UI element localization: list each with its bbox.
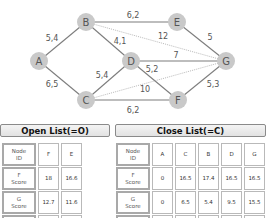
edge-weight-label: 10	[140, 85, 150, 94]
close-list-header: Close List(=C)	[115, 124, 266, 137]
node-label: A	[36, 56, 43, 67]
table-row-f-score: FScore 18 16.6	[2, 167, 82, 190]
cell: 6.5	[175, 191, 196, 214]
cell: E	[61, 143, 82, 166]
table-row-h-score: HScore 0 10 12 7 0	[116, 215, 265, 218]
cell: 9.5	[221, 191, 242, 214]
cell: 16.5	[244, 167, 265, 190]
graph-diagram: 5,46,56,24,112575,25,4106,25,3ABEDGCF	[0, 0, 273, 120]
row-label: GScore	[2, 191, 36, 214]
cell: 0	[152, 215, 173, 218]
cell: 11.6	[61, 191, 82, 214]
cell: 5.4	[198, 191, 219, 214]
cell: 15.5	[244, 191, 265, 214]
node-label: B	[83, 17, 90, 28]
edge-weight-label: 6,5	[46, 80, 59, 89]
node-label: E	[174, 17, 180, 28]
cell: 5	[61, 215, 82, 218]
row-label: GScore	[116, 191, 150, 214]
cell: 5.3	[38, 215, 59, 218]
row-label: NodeID	[2, 143, 36, 166]
edge-weight-label: 5	[207, 33, 212, 42]
table-row-g-score: GScore 12.7 11.6	[2, 191, 82, 214]
cell: 18	[38, 167, 59, 190]
table-row-node-id: NodeID A C B D G	[116, 143, 265, 166]
row-label: FScore	[116, 167, 150, 190]
row-label: HScore	[116, 215, 150, 218]
edge-weight-label: 5,2	[146, 65, 159, 74]
cell: 10	[175, 215, 196, 218]
cell: 0	[244, 215, 265, 218]
edge-weight-label: 5,4	[46, 34, 59, 43]
cell: 17.4	[198, 167, 219, 190]
cell: C	[175, 143, 196, 166]
cell: 0	[152, 191, 173, 214]
cell: F	[38, 143, 59, 166]
cell: D	[221, 143, 242, 166]
cell: 0	[152, 167, 173, 190]
cell: 16.5	[175, 167, 196, 190]
edge-weight-label: 5,4	[96, 71, 109, 80]
row-label: HScore	[2, 215, 36, 218]
row-label: NodeID	[116, 143, 150, 166]
table-row-node-id: NodeID F E	[2, 143, 82, 166]
open-list-header: Open List(=O)	[0, 124, 110, 137]
edge-E-G	[177, 22, 226, 61]
cell: B	[198, 143, 219, 166]
cell: A	[152, 143, 173, 166]
edge-weight-label: 5,3	[207, 80, 220, 89]
edge-weight-label: 12	[158, 32, 168, 41]
cell: G	[244, 143, 265, 166]
cell: 12.7	[38, 191, 59, 214]
node-label: G	[222, 56, 230, 67]
table-row-h-score: HScore 5.3 5	[2, 215, 82, 218]
open-list-table: NodeID F E FScore 18 16.6 GScore 12.7 11…	[0, 142, 84, 218]
cell: 16.5	[221, 167, 242, 190]
cell: 12	[198, 215, 219, 218]
table-row-g-score: GScore 0 6.5 5.4 9.5 15.5	[116, 191, 265, 214]
edge-weight-label: 4,1	[114, 37, 127, 46]
edge-weight-label: 6,2	[127, 11, 140, 20]
node-label: D	[127, 56, 135, 67]
edge-B-G	[86, 22, 226, 61]
row-label: FScore	[2, 167, 36, 190]
node-label: C	[83, 95, 90, 106]
close-list-table: NodeID A C B D G FScore 0 16.5 17.4 16.5…	[114, 142, 267, 218]
cell: 16.6	[61, 167, 82, 190]
node-label: F	[175, 95, 181, 106]
table-row-f-score: FScore 0 16.5 17.4 16.5 16.5	[116, 167, 265, 190]
cell: 7	[221, 215, 242, 218]
edge-weight-label: 7	[173, 51, 178, 60]
edge-weight-label: 6,2	[127, 106, 140, 115]
